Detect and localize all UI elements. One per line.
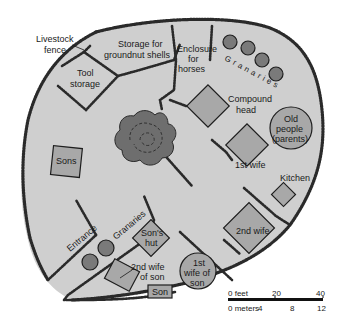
label-first-wife-of-son: 1st (193, 258, 206, 268)
label-second-wife-of-son-2: of son (140, 272, 165, 282)
scale-meters-4: 4 (258, 304, 263, 313)
scale-meters-8: 8 (290, 304, 295, 313)
label-sons-hut: Son's (141, 228, 164, 238)
label-kitchen: Kitchen (280, 173, 310, 183)
granary-bottom-2 (82, 254, 98, 270)
label-old-people-3: (parents) (272, 134, 308, 144)
label-second-wife-of-son: 2nd wife (131, 262, 165, 272)
label-storage-groundnut: Storage for (118, 39, 163, 49)
scale-meters-label: 0 meters (228, 304, 259, 313)
granary-top-2 (241, 41, 255, 55)
label-enclosure-horses-3: horses (178, 64, 206, 74)
label-old-people-2: people (276, 124, 303, 134)
granary-top-3 (255, 53, 269, 67)
scale-feet-20: 20 (272, 289, 281, 298)
label-livestock-fence: Livestock (36, 34, 74, 44)
label-old-people: Old (284, 114, 298, 124)
label-storage-groundnut-2: groundnut shells (104, 50, 171, 60)
label-son: Son (152, 287, 168, 297)
label-first-wife-of-son-3: son (190, 278, 205, 288)
tree-icon (115, 111, 176, 166)
scale-feet-40: 40 (316, 289, 325, 298)
label-second-wife: 2nd wife (236, 226, 270, 236)
label-first-wife: 1st wife (235, 160, 266, 170)
label-tool-storage: Tool (77, 68, 94, 78)
scale-feet-label: 0 feet (228, 289, 249, 298)
scale-meters-12: 12 (317, 304, 326, 313)
label-enclosure-horses-2: for (188, 54, 199, 64)
compound-diagram: Livestock fence Storage for groundnut sh… (0, 0, 345, 328)
label-tool-storage-2: storage (70, 79, 100, 89)
label-sons: Sons (56, 156, 77, 166)
scale-bar: 0 feet 20 40 0 meters 4 8 12 (228, 289, 326, 313)
label-livestock-fence-2: fence (44, 45, 66, 55)
granary-bottom-1 (98, 240, 114, 256)
label-compound-head: Compound (228, 94, 272, 104)
label-compound-head-2: head (236, 105, 256, 115)
granary-top-1 (223, 35, 237, 49)
label-first-wife-of-son-2: wife of (183, 268, 211, 278)
label-enclosure-horses: Enclosure (177, 44, 217, 54)
label-sons-hut-2: hut (145, 238, 158, 248)
